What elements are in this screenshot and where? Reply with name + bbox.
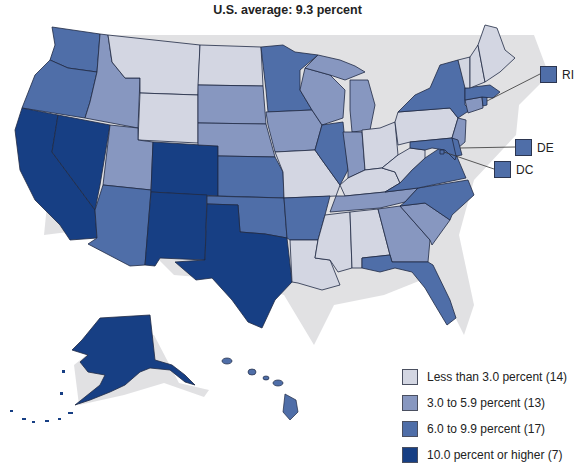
state-WY (138, 93, 198, 143)
callout-de: DE (515, 139, 554, 156)
ri-swatch (540, 66, 557, 83)
state-ND (198, 45, 263, 86)
legend-label: 10.0 percent or higher (7) (427, 448, 562, 462)
state-RI (482, 97, 487, 106)
legend-item-high: 10.0 percent or higher (7) (402, 442, 567, 468)
callout-de-label: DE (537, 141, 554, 155)
legend-label: 3.0 to 5.9 percent (13) (427, 396, 545, 410)
state-HI (222, 358, 298, 420)
state-DC (440, 150, 444, 154)
callout-dc-label: DC (516, 163, 533, 177)
state-CO (151, 142, 218, 196)
callout-dc: DC (494, 161, 533, 178)
state-IA (266, 110, 322, 152)
legend-swatch-high (402, 447, 418, 463)
callout-ri-label: RI (562, 68, 574, 82)
state-KS (218, 156, 284, 198)
legend-swatch-low (402, 369, 418, 385)
state-SD (198, 85, 266, 124)
state-NM (145, 192, 207, 266)
callout-ri: RI (540, 66, 574, 83)
de-swatch (515, 139, 532, 156)
legend-swatch-mid-high (402, 421, 418, 437)
legend-swatch-mid-low (402, 395, 418, 411)
legend-item-mid-low: 3.0 to 5.9 percent (13) (402, 390, 567, 416)
legend-label: 6.0 to 9.9 percent (17) (427, 422, 545, 436)
aleutian-islands (10, 370, 73, 423)
legend-item-mid-high: 6.0 to 9.9 percent (17) (402, 416, 567, 442)
dc-swatch (494, 161, 511, 178)
legend: Less than 3.0 percent (14) 3.0 to 5.9 pe… (402, 364, 567, 468)
legend-item-low: Less than 3.0 percent (14) (402, 364, 567, 390)
legend-label: Less than 3.0 percent (14) (427, 370, 567, 384)
